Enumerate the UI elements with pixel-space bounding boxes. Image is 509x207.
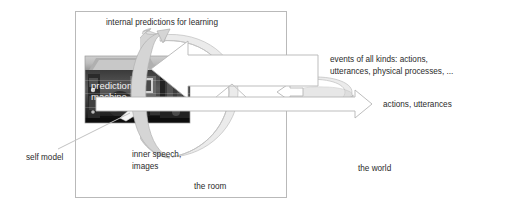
label-events-line2: utterances, physical processes, ... (330, 67, 453, 76)
diagram-canvas: prediction machine (0, 0, 509, 207)
label-actions-utterances: actions, utterances (383, 100, 452, 109)
label-events-line1: events of all kinds: actions, (330, 55, 428, 64)
label-inner-speech-line1: inner speech, (132, 150, 181, 159)
label-internal-predictions: internal predictions for learning (106, 18, 218, 27)
photo-label-line1: prediction (91, 80, 132, 91)
diagram-svg: prediction machine (0, 0, 509, 207)
label-inner-speech-line2: images (132, 162, 158, 171)
label-the-world: the world (358, 164, 392, 173)
label-self-model: self model (26, 153, 63, 162)
label-the-room: the room (194, 182, 226, 191)
